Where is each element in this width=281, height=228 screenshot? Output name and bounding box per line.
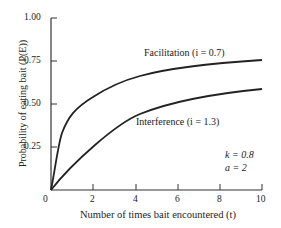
interference-label: Interference (i = 1.3) bbox=[136, 117, 219, 127]
x-tick-2: 2 bbox=[90, 195, 95, 205]
y-axis-label: Probability of eating bait (P(E)) bbox=[17, 24, 28, 184]
x-tick-8: 8 bbox=[217, 195, 222, 205]
x-axis-label: Number of times bait encountered (t) bbox=[80, 210, 236, 221]
facilitation-label: Facilitation (i = 0.7) bbox=[144, 48, 225, 58]
y-tick-1.00: 1.00 bbox=[24, 13, 41, 23]
k-annotation: k = 0.8 bbox=[225, 150, 254, 160]
a-annotation: a = 2 bbox=[225, 163, 247, 173]
x-tick-4: 4 bbox=[133, 195, 138, 205]
x-tick-6: 6 bbox=[175, 195, 180, 205]
x-tick-0: 0 bbox=[43, 195, 48, 205]
x-tick-10: 10 bbox=[256, 195, 266, 205]
